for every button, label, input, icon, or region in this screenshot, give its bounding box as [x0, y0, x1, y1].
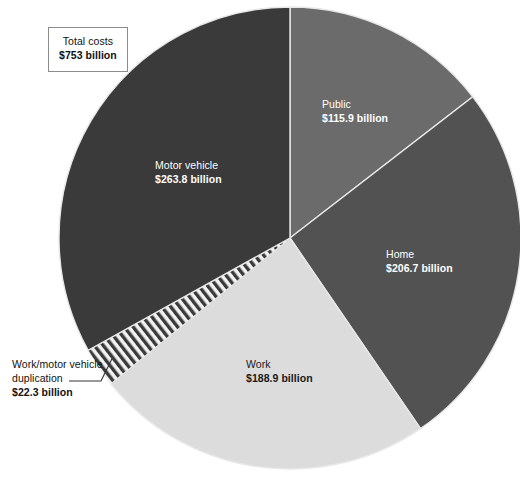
pie-slices — [59, 7, 520, 469]
pie-chart-svg — [0, 0, 520, 479]
pie-chart-figure: Total costs $753 billion Public $115.9 b… — [0, 0, 520, 479]
